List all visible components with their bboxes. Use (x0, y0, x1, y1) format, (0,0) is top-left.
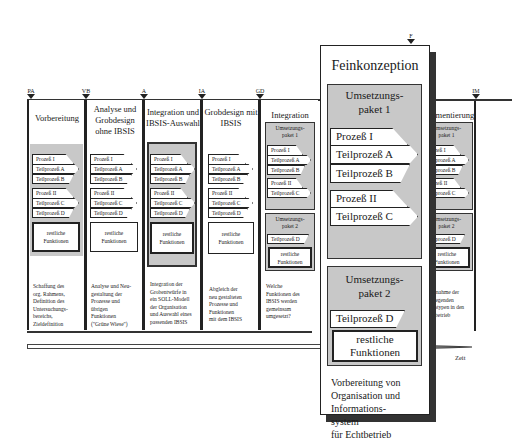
phase-description: Schaffung desorg. Rahmens,Definition des… (33, 283, 85, 328)
subprocess: Teilprozeß B (150, 174, 190, 184)
remaining-functions-box: restlicheFunktionen (150, 222, 194, 254)
subprocess: Teilprozeß C (330, 207, 418, 226)
package-2-label: Umsetzungs-paket 2 (265, 216, 315, 230)
subprocess: Teilprozeß A (32, 164, 79, 174)
phase-title: Analyse und Grobdesign ohne IBSIS (88, 104, 142, 137)
feinkonzeption-panel: Feinkonzeption Umsetzungs-paket 1 Prozeß… (320, 45, 430, 415)
subprocess: Teilprozeß C (150, 198, 195, 208)
subprocess: Teilprozeß D (90, 208, 132, 218)
subprocess: Teilprozeß D (330, 310, 405, 328)
subprocess: Teilprozeß A (330, 145, 418, 164)
subprocess: Teilprozeß A (267, 155, 311, 165)
phase-title: Grobdesign mit IBSIS (203, 107, 259, 129)
remaining-functions-box: restlicheFunktionen (208, 222, 254, 254)
remaining-functions-box: restlicheFunktionen (90, 222, 138, 252)
remaining-functions-box: restlicheFunktionen (332, 330, 418, 362)
milestone-f: F (402, 33, 420, 44)
subprocess: Teilprozeß B (330, 164, 410, 183)
milestone-ia: IA (193, 88, 211, 99)
milestone-vb: VB (77, 88, 95, 99)
time-axis (27, 344, 321, 349)
milestone-gd: GD (251, 88, 269, 99)
milestone-pa: PA (22, 88, 40, 99)
phase-title: Integration (262, 110, 318, 121)
subprocess: Teilprozeß D (208, 208, 248, 218)
time-axis-arrow (432, 345, 472, 349)
subprocess: Teilprozeß A (90, 164, 137, 174)
milestone-a: A (135, 88, 153, 99)
phase-description: Integration derGrobentwürfe inein SOLL-M… (150, 281, 202, 326)
phase-description: Abgleich derneu gestaltetenProzesse undF… (209, 286, 259, 324)
subprocess: Teilprozeß B (208, 174, 248, 184)
package-1-label: Umsetzungs-paket 1 (265, 125, 315, 139)
subprocess: Teilprozeß A (208, 164, 253, 174)
subprocess: Teilprozeß C (90, 198, 137, 208)
phase-description: Vorbereitung vonOrganisation undInformat… (331, 376, 429, 439)
remaining-functions-box: restlicheFunktionen (268, 247, 312, 268)
phase-title: Vorbereitung (29, 113, 85, 124)
phase-description: Analyse und Neu-gestaltung derProzesse u… (91, 283, 143, 328)
phase-description: WelcheFunktionen desIBSIS werdengemeinsa… (266, 283, 316, 321)
subprocess: Teilprozeß C (208, 198, 253, 208)
subprocess: Teilprozeß B (32, 174, 74, 184)
remaining-functions-box: restlicheFunktionen (32, 222, 80, 252)
subprocess: Teilprozeß C (32, 198, 79, 208)
subprocess: Teilprozeß B (90, 174, 132, 184)
subprocess: Teilprozeß C (267, 188, 311, 198)
subprocess: Teilprozeß D (267, 234, 309, 244)
subprocess: Teilprozeß D (150, 208, 190, 218)
package-1-label: Umsetzungs-paket 1 (327, 88, 422, 116)
phase-bottom-line (27, 331, 312, 333)
subprocess: Teilprozeß D (32, 208, 74, 218)
phase-title: Feinkonzeption (321, 58, 429, 74)
milestone-im: IM (467, 88, 485, 99)
subprocess: Teilprozeß A (150, 164, 195, 174)
subprocess: Teilprozeß B (267, 165, 305, 175)
package-2-label: Umsetzungs-paket 2 (327, 272, 422, 300)
phase-title: Integration und IBSIS-Auswahl (144, 107, 202, 129)
time-axis-label: Zeit (455, 354, 465, 361)
